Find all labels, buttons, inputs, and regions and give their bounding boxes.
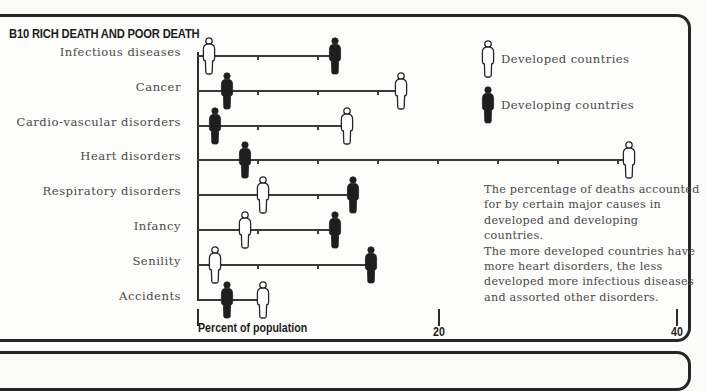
developed-figure-marker	[394, 72, 408, 110]
row-line	[197, 264, 371, 266]
x-axis-label: Percent of population	[198, 321, 307, 335]
developed-figure-marker	[340, 107, 354, 145]
minor-tick	[257, 56, 259, 60]
row-line	[197, 229, 335, 231]
developed-figure-marker	[208, 246, 222, 284]
row-line	[197, 159, 629, 161]
minor-tick	[377, 91, 379, 95]
minor-tick	[317, 230, 319, 234]
note-line: for by certain major causes in	[484, 197, 694, 212]
chart-title: B10 RICH DEATH AND POOR DEATH	[9, 26, 199, 41]
minor-tick	[437, 160, 439, 164]
developing-figure-marker	[220, 281, 234, 319]
note-line: and assorted other disorders.	[484, 290, 694, 305]
note-line: more heart disorders, the less	[484, 259, 694, 274]
row-label: Infancy	[134, 219, 181, 233]
minor-tick	[557, 160, 559, 164]
row-label: Cancer	[136, 80, 181, 94]
row-line	[197, 194, 353, 196]
minor-tick	[257, 160, 259, 164]
row-label: Respiratory disorders	[43, 184, 181, 198]
note-line: developed and developing	[484, 213, 694, 228]
minor-tick	[617, 160, 619, 164]
chart-description: The percentage of deaths accounted for b…	[484, 182, 694, 305]
minor-tick	[317, 160, 319, 164]
developing-figure-marker	[238, 141, 252, 179]
row-label: Heart disorders	[80, 149, 181, 163]
developed-figure-marker	[238, 211, 252, 249]
minor-tick	[497, 160, 499, 164]
note-line: The percentage of deaths accounted	[484, 182, 694, 197]
minor-tick	[257, 91, 259, 95]
legend-item-developing: Developing countries	[481, 86, 634, 124]
next-panel-frame	[0, 351, 691, 391]
developed-figure-marker	[256, 176, 270, 214]
developed-figure-marker	[622, 141, 636, 179]
minor-tick	[317, 126, 319, 130]
note-line: developed more infectious diseases	[484, 274, 694, 289]
scale-tick-40	[676, 309, 678, 326]
minor-tick	[257, 265, 259, 269]
x-tick-label-40: 40	[671, 325, 683, 339]
developing-figure-marker	[364, 246, 378, 284]
scale-tick-20	[438, 309, 440, 326]
row-label: Cardio-vascular disorders	[17, 115, 181, 129]
minor-tick	[257, 230, 259, 234]
row-label: Accidents	[119, 289, 181, 303]
developing-figure-marker	[328, 37, 342, 75]
developed-figure-icon	[481, 40, 495, 78]
minor-tick	[317, 56, 319, 60]
minor-tick	[317, 195, 319, 199]
note-line: countries.	[484, 228, 694, 243]
row-label: Senility	[132, 254, 181, 268]
legend-label-developed: Developed countries	[501, 52, 629, 66]
legend-label-developing: Developing countries	[501, 98, 634, 112]
developing-figure-marker	[220, 72, 234, 110]
developing-figure-marker	[346, 176, 360, 214]
developed-figure-marker	[256, 281, 270, 319]
row-line	[197, 55, 335, 57]
legend-item-developed: Developed countries	[481, 40, 629, 78]
row-label: Infectious diseases	[60, 45, 181, 59]
developing-figure-icon	[481, 86, 495, 124]
developed-figure-marker	[202, 37, 216, 75]
developing-figure-marker	[328, 211, 342, 249]
x-tick-label-20: 20	[433, 325, 445, 339]
minor-tick	[317, 265, 319, 269]
developing-figure-marker	[208, 107, 222, 145]
minor-tick	[377, 160, 379, 164]
minor-tick	[257, 126, 259, 130]
note-line: The more developed countries have	[484, 244, 694, 259]
minor-tick	[317, 91, 319, 95]
